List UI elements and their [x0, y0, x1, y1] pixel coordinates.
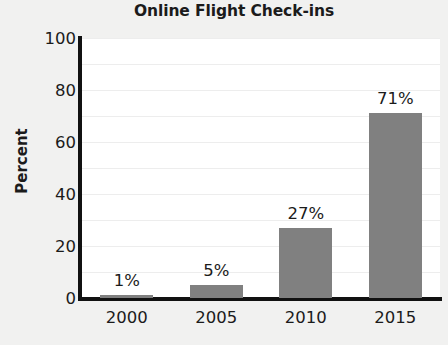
bar-value-label: 71%: [355, 89, 435, 108]
bar-chart: Online Flight Check-ins Percent 10080604…: [0, 0, 448, 345]
bar[interactable]: [190, 285, 243, 298]
bar[interactable]: [369, 113, 422, 298]
y-tick-label: 60: [24, 133, 76, 152]
y-tick-label: 80: [24, 81, 76, 100]
x-tick-label: 2005: [171, 308, 261, 327]
bar-value-label: 27%: [266, 204, 346, 223]
x-tick-label: 2000: [82, 308, 172, 327]
bar-value-label: 5%: [176, 261, 256, 280]
y-tick-label: 0: [24, 289, 76, 308]
gridline: [82, 38, 440, 39]
y-axis-line: [78, 36, 82, 300]
bar[interactable]: [100, 295, 153, 298]
gridline: [82, 64, 440, 65]
y-axis-ticks: 100806040200: [18, 0, 76, 345]
x-tick-label: 2015: [350, 308, 440, 327]
y-tick-label: 40: [24, 185, 76, 204]
y-tick-label: 20: [24, 237, 76, 256]
bar-value-label: 1%: [87, 271, 167, 290]
bar[interactable]: [279, 228, 332, 298]
y-tick-label: 100: [24, 29, 76, 48]
x-tick-label: 2010: [261, 308, 351, 327]
